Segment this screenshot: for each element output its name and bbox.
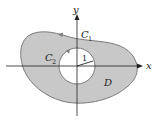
y-axis-label: y <box>72 4 79 15</box>
c1-subscript: 1 <box>88 35 92 43</box>
c2-subscript: 2 <box>52 58 56 66</box>
radius-label: 1 <box>82 54 87 63</box>
x-axis-label: x <box>146 60 152 71</box>
region-diagram: y x C 1 C 2 1 D <box>0 0 165 120</box>
x-axis-arrow-icon <box>137 64 143 69</box>
region-d-label: D <box>103 77 112 88</box>
